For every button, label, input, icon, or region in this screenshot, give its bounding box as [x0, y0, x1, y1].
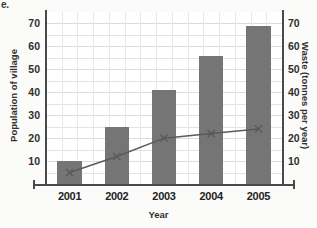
x-tick-2002: 2002 — [94, 190, 140, 202]
marker-2002 — [113, 153, 120, 160]
y-axis-left-line — [45, 10, 47, 186]
y-tick-left-40: 40 — [20, 87, 40, 98]
y-tick-left-60: 60 — [20, 41, 40, 52]
y-tick-left-30: 30 — [20, 110, 40, 121]
y-tick-right-60: 60 — [288, 41, 310, 52]
x-tick-2005: 2005 — [235, 190, 281, 202]
y-axis-left-title: Population of village — [8, 31, 19, 161]
x-axis-left-cap — [33, 180, 35, 189]
chart-page: e. Population of village Waste (tonnes p… — [0, 0, 317, 228]
y-tick-right-10: 10 — [288, 156, 310, 167]
x-tick-2003: 2003 — [141, 190, 187, 202]
line-path — [70, 129, 259, 173]
x-tick-2001: 2001 — [47, 190, 93, 202]
question-label: e. — [1, 0, 9, 10]
y-tick-right-70: 70 — [288, 18, 310, 29]
x-axis-title: Year — [0, 209, 317, 220]
plot-area — [46, 12, 282, 184]
y-tick-right-40: 40 — [288, 87, 310, 98]
x-axis-right-cap — [293, 180, 295, 189]
y-tick-right-30: 30 — [288, 110, 310, 121]
marker-2001 — [66, 169, 73, 176]
x-axis-line — [33, 184, 295, 186]
y-tick-right-20: 20 — [288, 133, 310, 144]
y-tick-left-50: 50 — [20, 64, 40, 75]
x-tick-2004: 2004 — [188, 190, 234, 202]
page-margin — [0, 222, 317, 228]
y-tick-left-10: 10 — [20, 156, 40, 167]
y-axis-right-line — [282, 10, 284, 186]
y-tick-left-70: 70 — [20, 18, 40, 29]
y-tick-right-50: 50 — [288, 64, 310, 75]
line-series — [46, 12, 282, 184]
y-tick-left-20: 20 — [20, 133, 40, 144]
